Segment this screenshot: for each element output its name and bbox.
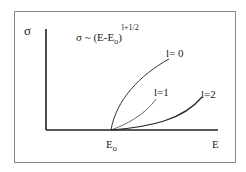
threshold-E: E <box>106 138 113 150</box>
formula-lhs: σ ~ (E-E <box>76 31 114 43</box>
curve-label-l0: l= 0 <box>166 48 184 59</box>
curve-label-l1: l=1 <box>154 87 169 98</box>
x-axis-label: E <box>212 139 219 150</box>
y-axis-label: σ <box>24 24 31 37</box>
curve-l2 <box>111 97 202 130</box>
threshold-label: Eo <box>106 139 117 153</box>
formula-exponent: l+1/2 <box>122 23 139 32</box>
curve-label-l2: l=2 <box>201 89 216 100</box>
threshold-sub: o <box>113 144 117 153</box>
formula: σ ~ (E-Eo)l+1/2 <box>76 30 139 46</box>
formula-rhs: ) <box>118 31 122 43</box>
